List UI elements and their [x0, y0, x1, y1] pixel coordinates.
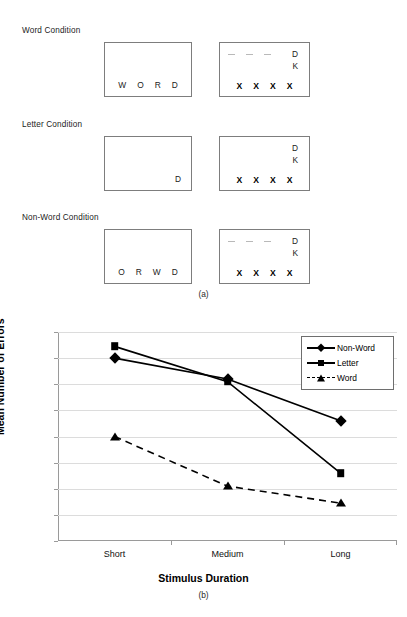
stimulus-letter: D	[172, 80, 178, 90]
data-point-letter-medium	[224, 378, 232, 386]
stimulus-letter: D	[172, 267, 178, 277]
y-tick	[54, 541, 58, 542]
data-point-word-medium	[223, 482, 233, 490]
legend-label: Non-Word	[336, 343, 375, 353]
data-point-word-long	[336, 499, 346, 507]
mask-probe-letter-second: K	[292, 61, 298, 71]
mask-probe-letter-top: D	[292, 143, 298, 153]
legend-label: Letter	[336, 358, 358, 368]
data-point-word-short	[110, 432, 120, 440]
legend-item-letter: Letter	[306, 355, 389, 370]
stimulus-letter: O	[118, 267, 125, 277]
legend-item-word: Word	[306, 370, 389, 385]
mask-dashes-icon	[228, 54, 271, 55]
x-tick-label: Medium	[188, 549, 268, 559]
stimulus-letter: O	[137, 80, 144, 90]
x-tick-label: Short	[75, 549, 155, 559]
mask-probe-letter-top: D	[292, 236, 298, 246]
stimulus-letter: R	[136, 267, 142, 277]
panel-b-caption: (b)	[0, 590, 407, 600]
mask-x: X	[237, 268, 243, 278]
chart-legend: Non-Word Letter Word	[301, 336, 394, 390]
x-tick	[396, 541, 397, 545]
legend-item-non-word: Non-Word	[306, 340, 389, 355]
condition-title-word: Word Condition	[22, 26, 80, 35]
mask-probe-letter-second: K	[292, 155, 298, 165]
stimulus-letter: W	[118, 80, 126, 90]
mask-x: X	[253, 81, 259, 91]
mask-box-word: D K X X X X	[219, 42, 310, 97]
mask-box-non-word: D K X X X X	[219, 229, 310, 284]
legend-marker-square-icon	[306, 357, 336, 369]
mask-x: X	[287, 175, 293, 185]
mask-probe-letter-second: K	[292, 248, 298, 258]
legend-label: Word	[336, 373, 357, 383]
mask-dashes-icon	[228, 241, 271, 242]
mask-x: X	[253, 175, 259, 185]
x-tick	[171, 541, 172, 545]
panel-a-stimulus-diagram: Word Condition W O R D D K X X X X Lette…	[0, 0, 407, 310]
x-axis-label: Stimulus Duration	[0, 572, 407, 584]
mask-x: X	[270, 81, 276, 91]
stimulus-box-letter: D	[104, 136, 192, 191]
mask-box-letter: D K X X X X	[219, 136, 310, 191]
mask-x: X	[270, 268, 276, 278]
mask-probe-letter-top: D	[292, 49, 298, 59]
stimulus-letter: D	[175, 174, 181, 184]
mask-x-row: X X X X	[220, 81, 309, 91]
plot-area: 0246810121416 ShortMediumLong Non-Word L…	[58, 332, 397, 541]
panel-a-caption: (a)	[0, 289, 407, 299]
stimulus-box-word: W O R D	[104, 42, 192, 97]
stimulus-letters-non-word: O R W D	[105, 267, 191, 277]
mask-x: X	[237, 81, 243, 91]
panel-b-line-chart: Mean Number of Errors 0246810121416 Shor…	[0, 310, 407, 617]
data-point-letter-short	[111, 343, 119, 351]
y-axis-label: Mean Number of Errors	[0, 318, 6, 435]
legend-marker-diamond-icon	[306, 342, 336, 354]
stimulus-letter: W	[153, 267, 161, 277]
stimulus-letter: R	[155, 80, 161, 90]
stimulus-letters-word: W O R D	[105, 80, 191, 90]
stimulus-box-non-word: O R W D	[104, 229, 192, 284]
x-tick	[284, 541, 285, 545]
mask-x-row: X X X X	[220, 175, 309, 185]
mask-x: X	[287, 81, 293, 91]
mask-x: X	[287, 268, 293, 278]
mask-x-row: X X X X	[220, 268, 309, 278]
x-tick-label: Long	[301, 549, 381, 559]
mask-x: X	[253, 268, 259, 278]
mask-x: X	[270, 175, 276, 185]
mask-x: X	[237, 175, 243, 185]
condition-title-non-word: Non-Word Condition	[22, 213, 99, 222]
stimulus-letters-letter: D	[105, 174, 191, 184]
legend-marker-triangle-icon	[306, 372, 336, 384]
data-point-letter-long	[337, 469, 345, 477]
condition-title-letter: Letter Condition	[22, 120, 82, 129]
